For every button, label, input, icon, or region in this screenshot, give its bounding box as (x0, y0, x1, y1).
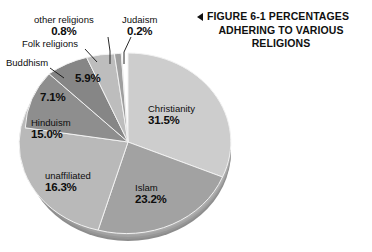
slice-label-judaism-percent: 0.2% (122, 26, 157, 38)
slice-label-folk-religions-percent: 5.9% (75, 73, 100, 85)
slice-label-islam: Islam 23.2% (135, 182, 167, 205)
slice-label-islam-name: Islam (135, 182, 167, 194)
slice-label-judaism: Judaism 0.2% (122, 14, 157, 37)
slice-label-unaffiliated-name: unaffiliated (45, 170, 91, 182)
slice-label-unaffiliated-percent: 16.3% (45, 182, 91, 194)
slice-label-christianity: Christianity 31.5% (148, 103, 195, 126)
slice-label-christianity-percent: 31.5% (148, 115, 195, 127)
slice-label-buddhism-percent: 7.1% (40, 92, 65, 104)
slice-label-hinduism-name: Hinduism (31, 117, 71, 129)
pie-slices (19, 53, 231, 234)
slice-label-christianity-name: Christianity (148, 103, 195, 115)
slice-label-buddhism-name: Buddhism (6, 57, 48, 69)
slice-label-hinduism-percent: 15.0% (31, 129, 71, 141)
slice-label-folk-religions-percent-group: 5.9% (75, 73, 100, 85)
slice-label-other-religions-name: other religions (34, 14, 94, 26)
slice-label-judaism-name: Judaism (122, 14, 157, 26)
slice-label-other-religions: other religions 0.8% (34, 14, 94, 37)
slice-label-folk-religions-name: Folk religions (22, 38, 78, 50)
slice-label-islam-percent: 23.2% (135, 194, 167, 206)
slice-label-hinduism: Hinduism 15.0% (31, 117, 71, 140)
slice-label-buddhism-percent-group: 7.1% (40, 92, 65, 104)
slice-label-unaffiliated: unaffiliated 16.3% (45, 170, 91, 193)
slice-label-other-religions-percent: 0.8% (34, 26, 94, 38)
